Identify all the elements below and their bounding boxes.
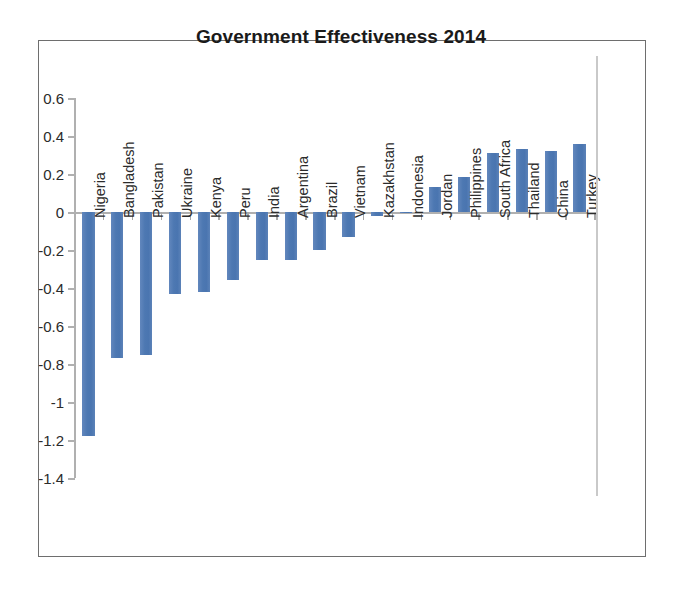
category-label: South Africa xyxy=(498,140,513,218)
category-label: Kazakhstan xyxy=(382,142,397,218)
y-axis-tick-label: -1.4 xyxy=(38,470,64,487)
bar xyxy=(82,212,94,436)
y-axis-tick xyxy=(68,440,75,442)
y-axis-tick xyxy=(68,326,75,328)
y-axis-tick-label: -0.8 xyxy=(38,356,64,373)
category-label: Indonesia xyxy=(411,155,426,218)
category-label: Jordan xyxy=(440,174,455,218)
y-axis-tick-label: 0.6 xyxy=(43,90,64,107)
y-axis-tick xyxy=(68,402,75,404)
category-label: Ukraine xyxy=(180,168,195,218)
y-axis-tick-label: -0.6 xyxy=(38,318,64,335)
y-axis-tick-label: 0.4 xyxy=(43,128,64,145)
y-axis-tick-label: -1.2 xyxy=(38,432,64,449)
y-axis-tick-label: 0 xyxy=(56,204,64,221)
plot-area: 0.60.40.20-0.2-0.4-0.6-0.8-1-1.2-1.4 Nig… xyxy=(74,98,594,478)
category-label: China xyxy=(556,180,571,218)
category-label: India xyxy=(267,187,282,218)
plot-right-edge xyxy=(596,56,598,496)
y-axis-tick xyxy=(68,98,75,100)
y-axis-tick xyxy=(68,136,75,138)
category-label: Brazil xyxy=(325,182,340,218)
bar xyxy=(140,212,152,355)
bar xyxy=(111,212,123,358)
bar xyxy=(198,212,210,292)
category-label: Argentina xyxy=(296,156,311,218)
bar xyxy=(169,212,181,294)
y-axis-tick-label: -0.2 xyxy=(38,242,64,259)
y-axis-tick-label: -1 xyxy=(51,394,64,411)
y-axis-tick xyxy=(68,364,75,366)
y-axis-tick xyxy=(68,250,75,252)
category-label: Bangladesh xyxy=(122,141,137,218)
y-axis-tick xyxy=(68,288,75,290)
y-axis-tick-label: 0.2 xyxy=(43,166,64,183)
bar xyxy=(285,212,297,260)
category-label: Thailand xyxy=(527,162,542,218)
bar xyxy=(227,212,239,280)
y-axis-tick-label: -0.4 xyxy=(38,280,64,297)
category-label: Pakistan xyxy=(151,162,166,218)
category-label: Vietnam xyxy=(353,165,368,218)
bar xyxy=(256,212,268,260)
category-label: Peru xyxy=(238,187,253,218)
y-axis-tick xyxy=(68,478,75,480)
chart-title: Government Effectiveness 2014 xyxy=(0,26,682,48)
category-label: Nigeria xyxy=(93,172,108,218)
y-axis-tick xyxy=(68,212,75,214)
category-label: Philippines xyxy=(469,148,484,218)
y-axis-tick xyxy=(68,174,75,176)
category-label: Kenya xyxy=(209,177,224,218)
